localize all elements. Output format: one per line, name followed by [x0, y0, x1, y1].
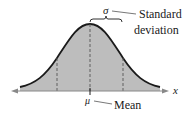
normal-distribution-diagram: σ Standard deviation x μ Mean [0, 0, 196, 114]
sigma-label: σ [103, 4, 109, 16]
std-label-line1: Standard [139, 7, 182, 21]
std-label-line2: deviation [134, 23, 179, 37]
mean-leader-line [94, 101, 112, 104]
axis-arrow-right-icon [162, 89, 169, 94]
sigma-leader-line [112, 11, 136, 14]
mean-label: Mean [114, 98, 141, 112]
sigma-bracket [90, 16, 122, 22]
mu-label: μ [84, 95, 90, 106]
axis-arrow-left-icon [11, 89, 18, 94]
x-axis-label: x [172, 84, 178, 96]
